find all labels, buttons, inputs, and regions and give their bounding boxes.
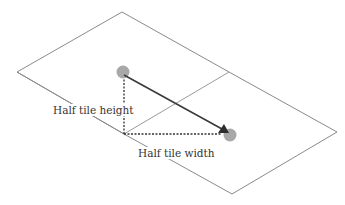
movement-arrow-line	[124, 75, 222, 129]
tile-edge-lower-left	[17, 72, 124, 134]
isometric-tile-diagram	[0, 0, 345, 205]
half-tile-width-label: Half tile width	[137, 147, 216, 159]
half-tile-height-label: Half tile height	[52, 104, 135, 116]
